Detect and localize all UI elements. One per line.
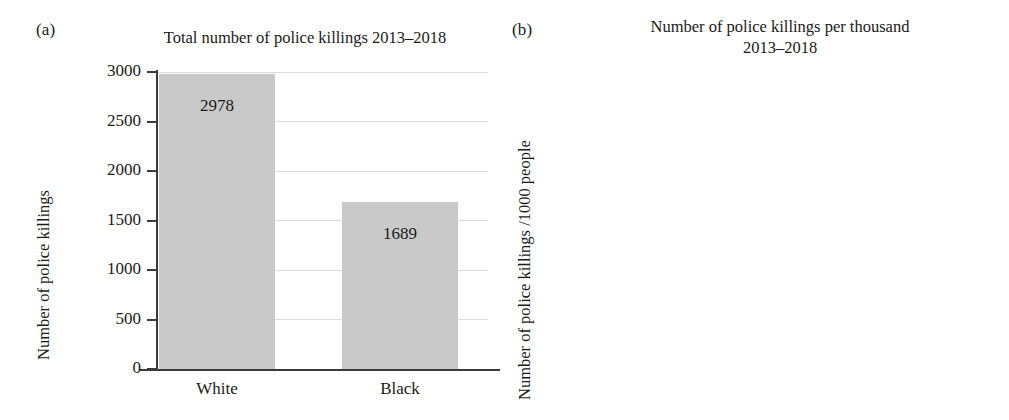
panel-b-title: Number of police killings per thousand 2… [580, 16, 980, 58]
y-axis-tick [147, 170, 156, 172]
panel-b-title-line1: Number of police killings per thousand [580, 16, 980, 37]
x-axis-category-label: Black [330, 379, 470, 399]
y-axis-tick-label: 1500 [61, 210, 141, 230]
y-axis-tick-label: 0 [61, 358, 141, 378]
panel-b-title-line2: 2013–2018 [580, 37, 980, 58]
bar-value-label: 2978 [159, 96, 275, 116]
panel-a-y-axis-label: Number of police killings [34, 190, 54, 360]
panel-a-x-axis-line [140, 369, 500, 371]
panel-b-letter: (b) [512, 20, 532, 40]
panel-b: (b) Number of police killings per thousa… [505, 0, 1009, 420]
y-axis-tick [147, 368, 156, 370]
y-axis-tick-label: 2000 [61, 160, 141, 180]
y-axis-tick-label: 2500 [61, 111, 141, 131]
y-axis-tick [147, 319, 156, 321]
panel-a: (a) Total number of police killings 2013… [0, 0, 505, 420]
y-axis-tick [147, 71, 156, 73]
gridline [158, 72, 488, 73]
y-axis-tick [147, 220, 156, 222]
y-axis-tick-label: 1000 [61, 259, 141, 279]
panel-a-letter: (a) [36, 20, 55, 40]
bar-value-label: 1689 [342, 224, 458, 244]
figure-two-panel-bar-charts: (a) Total number of police killings 2013… [0, 0, 1009, 420]
y-axis-tick-label: 3000 [61, 61, 141, 81]
y-axis-tick [147, 121, 156, 123]
y-axis-tick-label: 500 [61, 309, 141, 329]
bar [159, 74, 275, 369]
y-axis-tick [147, 269, 156, 271]
panel-b-y-axis-label: Number of police killings /1000 people [515, 140, 535, 400]
x-axis-category-label: White [147, 379, 287, 399]
panel-a-title: Total number of police killings 2013–201… [115, 27, 495, 48]
